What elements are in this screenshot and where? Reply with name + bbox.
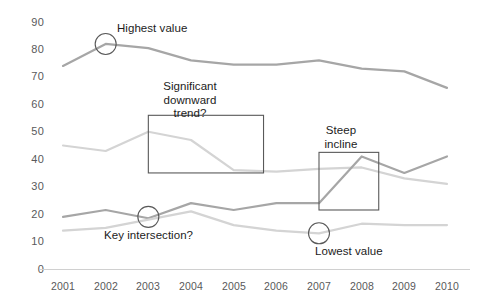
plot-area [0,0,478,306]
series-line-c [63,156,447,218]
annotation-label-highest-value: Highest value [117,22,187,36]
annotation-label-downward-trend: Significant downward trend? [145,80,235,121]
series-line-b [63,132,447,184]
line-chart: 90 80 70 60 50 40 30 20 10 0 2001 2002 2… [0,0,478,306]
steep-incline-box [319,152,379,210]
annotation-label-steep-incline: Steep incline [310,124,372,151]
annotation-label-lowest-value: Lowest value [315,245,383,259]
annotation-label-key-intersection: Key intersection? [104,229,193,243]
series-line-a [63,44,447,88]
downward-trend-box [148,115,263,173]
